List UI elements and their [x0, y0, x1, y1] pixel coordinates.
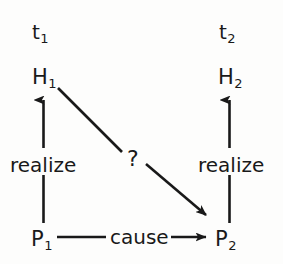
diagram-canvas: t1 t2 H1 H2 P1 P2 realize realize cause …	[0, 0, 283, 264]
edge-label-realize-right: realize	[196, 155, 266, 175]
time-label-t2: t2	[219, 22, 235, 42]
time-label-t1: t1	[32, 22, 48, 42]
time-label-t1-subscript: 1	[40, 31, 48, 46]
node-h2: H2	[218, 67, 242, 88]
node-h2-subscript: 2	[234, 76, 242, 91]
node-h2-base: H	[218, 65, 234, 89]
node-h1: H1	[32, 67, 56, 88]
node-p1-base: P	[31, 227, 44, 251]
node-p2-base: P	[215, 227, 228, 251]
time-label-t1-base: t	[32, 20, 40, 44]
edge-label-question-mark: ?	[124, 148, 142, 170]
time-label-t2-base: t	[219, 20, 227, 44]
edge-label-cause: cause	[108, 227, 171, 247]
node-h1-base: H	[32, 65, 48, 89]
node-p1-subscript: 1	[44, 238, 52, 253]
edge-label-realize-left: realize	[8, 155, 78, 175]
time-label-t2-subscript: 2	[227, 31, 235, 46]
node-h1-subscript: 1	[48, 76, 56, 91]
node-p2: P2	[215, 229, 236, 250]
node-p1: P1	[31, 229, 52, 250]
node-p2-subscript: 2	[228, 238, 236, 253]
